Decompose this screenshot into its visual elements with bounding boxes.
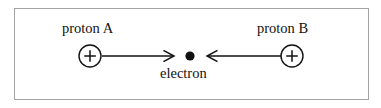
- particle-proton-b: [281, 45, 303, 67]
- diagram-canvas: [0, 0, 381, 108]
- label-electron: electron: [160, 66, 207, 81]
- label-proton-b: proton B: [257, 21, 308, 36]
- electron-dot: [185, 51, 194, 60]
- figure-root: proton A proton B electron: [0, 0, 381, 108]
- label-proton-a: proton A: [62, 21, 113, 36]
- force-arrow-right: [207, 50, 281, 61]
- particle-proton-a: [79, 45, 101, 67]
- force-arrow-left: [102, 50, 174, 61]
